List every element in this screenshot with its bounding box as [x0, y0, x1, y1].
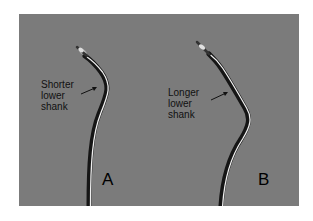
annotation-b: Longer lower shank: [168, 87, 199, 120]
label-letter-a: A: [102, 170, 113, 190]
annotation-a-line1: Shorter: [41, 79, 74, 90]
annotation-b-line2: lower: [168, 98, 199, 109]
annotation-a-line3: shank: [41, 101, 74, 112]
label-letter-b: B: [258, 170, 269, 190]
annotation-b-line1: Longer: [168, 87, 199, 98]
annotation-a-line2: lower: [41, 90, 74, 101]
annotation-b-line3: shank: [168, 109, 199, 120]
instrument-b: [197, 42, 250, 206]
photo-panel: Shorter lower shank Longer lower shank A…: [19, 14, 299, 206]
annotation-a: Shorter lower shank: [41, 79, 74, 112]
